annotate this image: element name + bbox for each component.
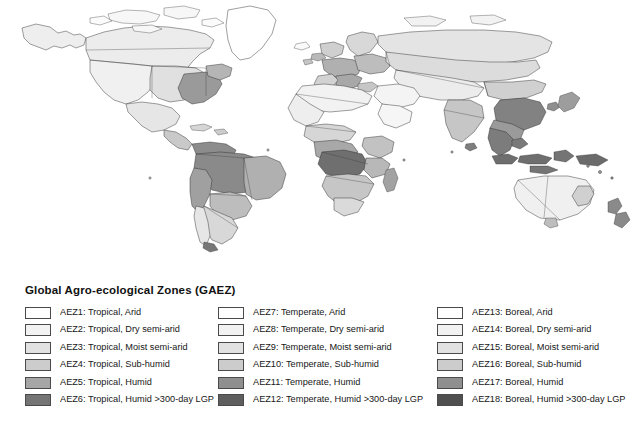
legend-label-aez10: AEZ10: Temperate, Sub-humid [253,360,379,369]
legend-swatch-aez11 [218,377,244,389]
gaez-figure: Global Agro-ecological Zones (GAEZ) AEZ1… [0,0,644,428]
legend-swatch-aez17 [437,377,463,389]
legend-label-aez2: AEZ2: Tropical, Dry semi-arid [60,325,180,334]
legend-column-temperate: AEZ7: Temperate, Arid AEZ8: Temperate, D… [218,304,423,409]
legend-item: AEZ6: Tropical, Humid >300-day LGP [25,392,214,409]
legend-label-aez14: AEZ14: Boreal, Dry semi-arid [472,325,591,334]
legend-item: AEZ14: Boreal, Dry semi-arid [437,322,625,339]
legend-swatch-aez18 [437,394,463,406]
legend-swatch-aez13 [437,307,463,319]
world-map-panel [0,0,644,262]
legend-item: AEZ12: Temperate, Humid >300-day LGP [218,392,423,409]
legend-label-aez7: AEZ7: Temperate, Arid [253,308,345,317]
legend-title: Global Agro-ecological Zones (GAEZ) [25,284,236,296]
legend-item: AEZ18: Boreal, Humid >300-day LGP [437,392,625,409]
legend-item: AEZ17: Boreal, Humid [437,374,625,391]
legend-swatch-aez12 [218,394,244,406]
legend-label-aez16: AEZ16: Boreal, Sub-humid [472,360,581,369]
legend-label-aez18: AEZ18: Boreal, Humid >300-day LGP [472,395,625,404]
legend-swatch-aez6 [25,394,51,406]
legend-swatch-aez5 [25,377,51,389]
legend-swatch-aez16 [437,359,463,371]
legend-swatch-aez14 [437,324,463,336]
legend-swatch-aez1 [25,307,51,319]
legend-label-aez5: AEZ5: Tropical, Humid [60,378,152,387]
map-legend: Global Agro-ecological Zones (GAEZ) AEZ1… [0,262,644,428]
legend-label-aez11: AEZ11: Temperate, Humid [253,378,360,387]
legend-item: AEZ16: Boreal, Sub-humid [437,357,625,374]
legend-label-aez17: AEZ17: Boreal, Humid [472,378,563,387]
legend-item: AEZ11: Temperate, Humid [218,374,423,391]
legend-label-aez13: AEZ13: Boreal, Arid [472,308,553,317]
legend-item: AEZ10: Temperate, Sub-humid [218,357,423,374]
legend-item: AEZ5: Tropical, Humid [25,374,214,391]
legend-item: AEZ9: Temperate, Moist semi-arid [218,339,423,356]
legend-swatch-aez3 [25,342,51,354]
legend-item: AEZ15: Boreal, Moist semi-arid [437,339,625,356]
legend-label-aez4: AEZ4: Tropical, Sub-humid [60,360,170,369]
legend-item: AEZ2: Tropical, Dry semi-arid [25,322,214,339]
legend-item: AEZ4: Tropical, Sub-humid [25,357,214,374]
legend-swatch-aez9 [218,342,244,354]
legend-item: AEZ3: Tropical, Moist semi-arid [25,339,214,356]
legend-label-aez1: AEZ1: Tropical, Arid [60,308,141,317]
legend-swatch-aez10 [218,359,244,371]
legend-swatch-aez4 [25,359,51,371]
legend-label-aez6: AEZ6: Tropical, Humid >300-day LGP [60,395,214,404]
legend-label-aez3: AEZ3: Tropical, Moist semi-arid [60,343,188,352]
legend-item: AEZ1: Tropical, Arid [25,304,214,321]
world-map-svg [0,0,644,262]
legend-label-aez8: AEZ8: Temperate, Dry semi-arid [253,325,384,334]
legend-item: AEZ13: Boreal, Arid [437,304,625,321]
legend-swatch-aez2 [25,324,51,336]
legend-column-boreal: AEZ13: Boreal, Arid AEZ14: Boreal, Dry s… [437,304,625,409]
legend-swatch-aez15 [437,342,463,354]
legend-item: AEZ8: Temperate, Dry semi-arid [218,322,423,339]
legend-label-aez15: AEZ15: Boreal, Moist semi-arid [472,343,599,352]
legend-swatch-aez8 [218,324,244,336]
legend-label-aez12: AEZ12: Temperate, Humid >300-day LGP [253,395,423,404]
legend-item: AEZ7: Temperate, Arid [218,304,423,321]
legend-column-tropical: AEZ1: Tropical, Arid AEZ2: Tropical, Dry… [25,304,214,409]
legend-label-aez9: AEZ9: Temperate, Moist semi-arid [253,343,392,352]
legend-swatch-aez7 [218,307,244,319]
